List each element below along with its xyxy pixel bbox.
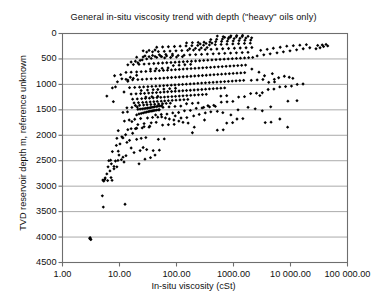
data-point [189, 75, 192, 78]
data-point [250, 67, 253, 70]
data-point [208, 43, 211, 46]
data-point [147, 91, 150, 94]
data-point [255, 91, 258, 94]
data-point [305, 43, 308, 46]
data-point [197, 101, 200, 104]
y-tick-label: 3000 [21, 181, 57, 191]
data-point [190, 44, 193, 47]
data-point [231, 42, 234, 45]
data-point [165, 102, 168, 105]
data-point [145, 148, 148, 151]
data-point [150, 77, 153, 80]
data-point [185, 82, 188, 85]
data-point [129, 71, 132, 74]
data-point [208, 81, 211, 84]
data-point [181, 121, 184, 124]
data-point [158, 77, 161, 80]
data-point [165, 61, 168, 64]
data-point [192, 88, 195, 91]
data-point [188, 53, 191, 56]
data-point [278, 85, 281, 88]
data-point [167, 123, 170, 126]
y-tick-label: 500 [21, 53, 57, 63]
data-point [177, 89, 180, 92]
data-point [154, 85, 157, 88]
data-point [173, 61, 176, 64]
data-point [177, 64, 180, 67]
data-point [109, 176, 112, 179]
data-points [88, 34, 329, 242]
data-point [249, 42, 252, 45]
data-point [140, 137, 143, 140]
data-point [217, 65, 220, 68]
data-point [266, 48, 269, 51]
data-point [227, 57, 230, 60]
data-point [186, 98, 189, 101]
data-point [192, 114, 195, 117]
data-point [128, 139, 131, 142]
data-point [180, 49, 183, 52]
data-point [142, 85, 145, 88]
data-point [167, 99, 170, 102]
data-point [119, 73, 122, 76]
data-point [182, 75, 185, 78]
data-point [174, 114, 177, 117]
data-point [212, 87, 215, 90]
x-tick-label: 1000.00 [203, 269, 265, 279]
data-point [204, 111, 207, 114]
data-point [134, 60, 137, 63]
data-point [151, 91, 154, 94]
data-point [142, 146, 145, 149]
data-point [264, 121, 267, 124]
data-point [125, 141, 128, 144]
data-point [179, 104, 182, 107]
data-point [231, 79, 234, 82]
data-point [167, 45, 170, 48]
data-point [140, 70, 143, 73]
data-point [156, 88, 159, 91]
data-point [106, 179, 109, 182]
data-point [198, 59, 201, 62]
data-point [205, 66, 208, 69]
data-point [167, 105, 170, 108]
data-point [221, 65, 224, 68]
data-point [243, 42, 246, 45]
data-point [177, 119, 180, 122]
y-tick-label: 4500 [21, 257, 57, 267]
data-point [163, 137, 166, 140]
data-point [178, 75, 181, 78]
x-tick-label: 100.00 [146, 269, 208, 279]
data-point [147, 49, 150, 52]
data-point [256, 54, 259, 57]
data-point [216, 73, 219, 76]
data-point [136, 123, 139, 126]
data-point [191, 41, 194, 44]
data-point [292, 44, 295, 47]
data-point [169, 102, 172, 105]
data-point [135, 74, 138, 77]
data-point [108, 169, 111, 172]
data-point [126, 128, 129, 131]
data-point [142, 49, 145, 52]
data-point [279, 46, 282, 49]
data-point [177, 111, 180, 114]
data-point [145, 103, 148, 106]
data-point [149, 67, 152, 70]
data-point [101, 194, 104, 197]
data-point [157, 62, 160, 65]
data-point [224, 72, 227, 75]
data-point [115, 144, 118, 147]
data-point [205, 74, 208, 77]
data-point [115, 137, 118, 140]
data-point [170, 95, 173, 98]
data-point [172, 64, 175, 67]
data-point [243, 71, 246, 74]
data-point [228, 72, 231, 75]
chart-container: General in-situ viscosity trend with dep… [0, 0, 387, 308]
data-point [159, 96, 162, 99]
data-point [118, 142, 121, 145]
data-point [185, 89, 188, 92]
gridlines [63, 59, 348, 237]
data-point [158, 148, 161, 151]
data-point [166, 90, 169, 93]
